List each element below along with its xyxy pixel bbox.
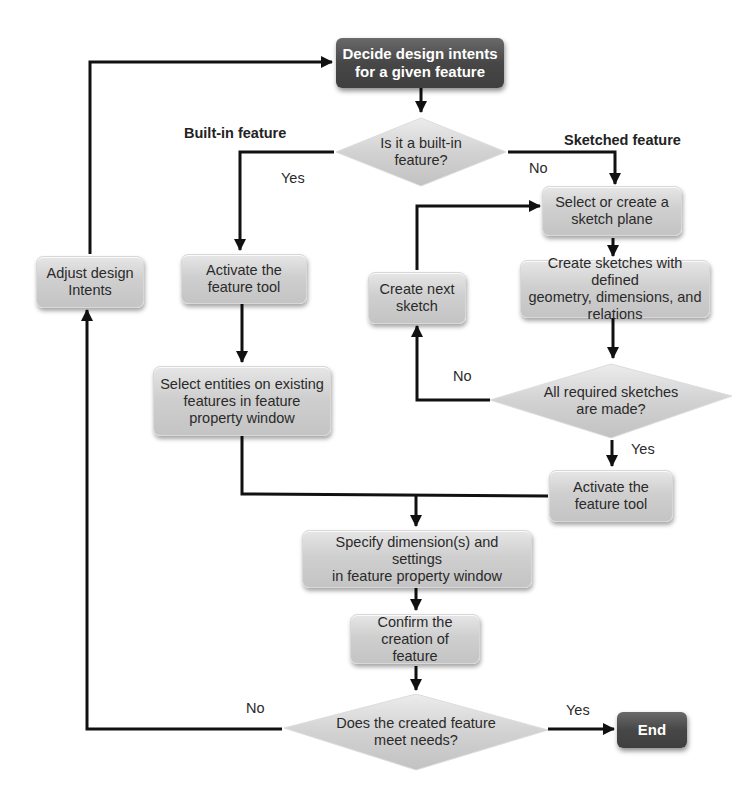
create-sketches-node: Create sketches with defined geometry, d… (520, 260, 710, 318)
decision-sketches-line-1: All required sketches (544, 384, 679, 401)
activate-builtin-line-2: feature tool (206, 279, 282, 296)
adjust-intents-node: Adjust design Intents (36, 256, 144, 308)
edge-label-meet-yes: Yes (566, 702, 590, 718)
select-entities-node: Select entities on existing features in … (153, 366, 331, 436)
section-label-builtin: Built-in feature (184, 125, 286, 141)
create-next-sketch-node: Create next sketch (368, 272, 466, 324)
activate-sketched-node: Activate the feature tool (549, 470, 673, 522)
edge-next-to-plane (417, 206, 540, 270)
activate-sketched-line-2: feature tool (573, 496, 649, 513)
decision-sketches-line-2: are made? (544, 401, 679, 418)
create-sketches-line-1: Create sketches with defined (527, 255, 703, 289)
select-plane-line-2: sketch plane (555, 211, 669, 228)
end-node-label: End (638, 721, 666, 739)
select-entities-line-3: property window (160, 410, 324, 427)
decision-builtin-line-2: feature? (380, 152, 461, 169)
decision-meet-line-1: Does the created feature (336, 715, 496, 732)
adjust-line-1: Adjust design (46, 265, 133, 282)
specify-dimensions-node: Specify dimension(s) and settings in fea… (302, 530, 532, 588)
select-plane-line-1: Select or create a (555, 194, 669, 211)
decision-meet-needs: Does the created feature meet needs? (282, 692, 550, 772)
confirm-line-1: Confirm the (357, 614, 473, 631)
decision-sketches: All required sketches are made? (488, 362, 734, 440)
specify-line-1: Specify dimension(s) and settings (309, 534, 525, 568)
create-next-line-2: sketch (380, 298, 455, 315)
end-node: End (617, 712, 687, 748)
confirm-line-2: creation of feature (357, 631, 473, 665)
edge-label-meet-no: No (246, 700, 265, 716)
start-node: Decide design intents for a given featur… (336, 38, 504, 88)
edge-label-builtin-yes: Yes (281, 170, 305, 186)
activate-builtin-node: Activate the feature tool (181, 254, 307, 304)
decision-builtin: Is it a built-in feature? (334, 116, 508, 188)
adjust-line-2: Intents (46, 282, 133, 299)
edge-sketches-no (417, 326, 490, 400)
edge-builtin-yes (240, 152, 334, 250)
edge-label-builtin-no: No (529, 160, 548, 176)
section-label-sketched: Sketched feature (564, 132, 681, 148)
edge-adjust-to-start (90, 62, 332, 254)
edge-label-sketches-yes: Yes (631, 441, 655, 457)
confirm-creation-node: Confirm the creation of feature (350, 614, 480, 664)
start-node-line-1: Decide design intents (342, 45, 497, 63)
start-node-line-2: for a given feature (342, 63, 497, 81)
activate-builtin-line-1: Activate the (206, 262, 282, 279)
select-entities-line-2: features in feature (160, 393, 324, 410)
create-next-line-1: Create next (380, 281, 455, 298)
edge-builtin-no (508, 152, 615, 184)
select-entities-line-1: Select entities on existing (160, 376, 324, 393)
decision-builtin-line-1: Is it a built-in (380, 135, 461, 152)
decision-meet-line-2: meet needs? (336, 732, 496, 749)
select-plane-node: Select or create a sketch plane (542, 186, 682, 236)
create-sketches-line-2: geometry, dimensions, and (527, 289, 703, 306)
edge-label-sketches-no: No (453, 368, 472, 384)
create-sketches-line-3: relations (527, 306, 703, 323)
specify-line-2: in feature property window (309, 568, 525, 585)
activate-sketched-line-1: Activate the (573, 479, 649, 496)
edge-entities-join (242, 436, 548, 496)
